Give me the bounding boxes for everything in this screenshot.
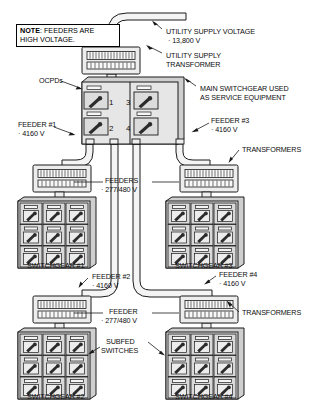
label-transformers-lower: TRANSFORMERS xyxy=(242,309,301,317)
transformer-feeder-1 xyxy=(33,165,91,192)
label-feeder-3-value: · 4160 V xyxy=(211,126,237,134)
ocpd-3 xyxy=(134,92,158,109)
label-feeders-mid-value: · 277/480 V xyxy=(101,186,137,194)
label-utility-supply-voltage-value: · 13,800 V xyxy=(168,37,200,45)
switchgear-2 xyxy=(18,328,96,399)
utility-supply-transformer xyxy=(82,47,140,74)
transformer-feeder-3 xyxy=(180,165,238,192)
ocpd-4-number: 4 xyxy=(126,124,130,133)
label-transformers-upper: TRANSFORMERS xyxy=(242,146,301,154)
ocpd-4 xyxy=(134,118,158,135)
feeder-3-conduit xyxy=(176,144,210,167)
feeder-1-conduit xyxy=(62,144,93,167)
ocpd-3-number: 3 xyxy=(126,98,130,107)
ocpd-2 xyxy=(84,118,108,135)
switchgear-3 xyxy=(166,197,244,268)
label-feeder-lower-value: · 277/480 V xyxy=(101,317,137,325)
label-feeder-2-value: · 4160 V xyxy=(92,282,118,290)
switchgear-1 xyxy=(18,197,96,268)
ocpd-1-number: 1 xyxy=(109,98,113,107)
transformer-feeder-4 xyxy=(180,296,238,323)
label-subfed-line2: SWITCHES xyxy=(101,347,138,355)
label-switchgear-2: SWITCHGEAR #2 xyxy=(27,393,84,401)
transformer-feeder-2 xyxy=(33,296,91,323)
one-line-diagram: NOTE: FEEDERS ARE HIGH VOLTAGE. UTILITY … xyxy=(0,0,310,403)
switchgear-4 xyxy=(166,328,244,399)
ocpd-4-label-slot xyxy=(137,112,151,115)
label-feeder-4-value: · 4160 V xyxy=(219,280,245,288)
label-utility-supply-transformer-line2: TRANSFORMER xyxy=(166,61,220,69)
label-feeder-1-value: · 4160 V xyxy=(18,130,44,138)
label-ocpds: OCPDs xyxy=(39,77,63,85)
ocpd-3-label-slot xyxy=(137,86,151,89)
ocpd-2-number: 2 xyxy=(109,124,113,133)
ocpd-2-label-slot xyxy=(87,112,101,115)
ocpd-1 xyxy=(84,92,108,109)
label-switchgear-4: SWITCHGEAR #4 xyxy=(175,393,232,401)
label-switchgear-1: SWITCHGEAR #1 xyxy=(27,262,84,270)
note-box: NOTE: FEEDERS ARE HIGH VOLTAGE. xyxy=(16,24,120,47)
ocpd-1-label-slot xyxy=(87,86,101,89)
diagram-canvas xyxy=(0,0,310,403)
main-switchgear xyxy=(82,77,184,144)
label-main-switchgear-line2: AS SERVICE EQUIPMENT xyxy=(200,94,286,102)
note-line-2: HIGH VOLTAGE. xyxy=(20,35,75,44)
